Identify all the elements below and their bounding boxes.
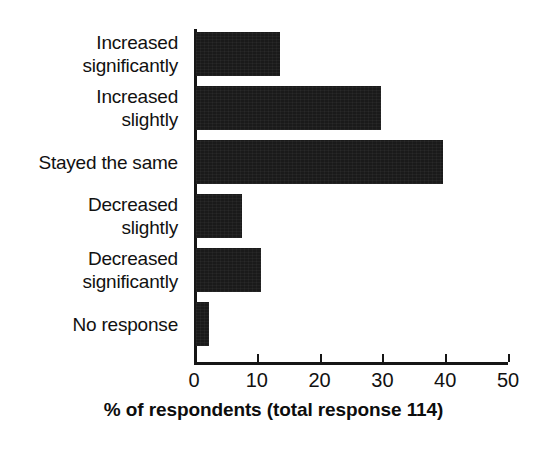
category-label: Increasedslightly xyxy=(0,85,178,131)
x-axis-tick xyxy=(194,354,196,362)
category-axis: IncreasedsignificantlyIncreasedslightlyS… xyxy=(0,20,186,360)
x-axis-title: % of respondents (total response 114) xyxy=(0,398,547,422)
category-label-line: Increased xyxy=(0,85,178,108)
bar xyxy=(196,32,280,76)
category-label-line: slightly xyxy=(0,216,178,239)
bar xyxy=(196,86,381,130)
x-axis-line xyxy=(194,362,508,365)
bar xyxy=(196,140,443,184)
category-label-line: Stayed the same xyxy=(0,151,178,174)
x-axis-tick xyxy=(320,354,322,362)
bar xyxy=(196,194,242,238)
x-axis-tick xyxy=(257,354,259,362)
category-label: No response xyxy=(0,313,178,336)
x-axis-tick-label: 30 xyxy=(352,368,412,392)
bar xyxy=(196,248,261,292)
x-axis-tick xyxy=(445,354,447,362)
category-label-line: Decreased xyxy=(0,193,178,216)
bar xyxy=(196,302,209,346)
x-axis-tick-label: 10 xyxy=(227,368,287,392)
x-axis-tick-label: 50 xyxy=(478,368,538,392)
category-label: Decreasedsignificantly xyxy=(0,247,178,293)
x-axis-tick xyxy=(382,354,384,362)
x-axis-tick-labels: 01020304050 xyxy=(144,368,547,396)
category-label: Decreasedslightly xyxy=(0,193,178,239)
category-label-line: slightly xyxy=(0,108,178,131)
category-label-line: Increased xyxy=(0,31,178,54)
category-label-line: Decreased xyxy=(0,247,178,270)
category-label-line: significantly xyxy=(0,270,178,293)
category-label: Stayed the same xyxy=(0,151,178,174)
x-axis-tick-label: 20 xyxy=(290,368,350,392)
plot-area xyxy=(194,20,509,365)
category-label: Increasedsignificantly xyxy=(0,31,178,77)
category-label-line: No response xyxy=(0,313,178,336)
x-axis-tick-label: 40 xyxy=(415,368,475,392)
x-axis-tick xyxy=(508,354,510,362)
x-axis-tick-label: 0 xyxy=(164,368,224,392)
category-label-line: significantly xyxy=(0,54,178,77)
bar-chart: IncreasedsignificantlyIncreasedslightlyS… xyxy=(0,0,547,450)
